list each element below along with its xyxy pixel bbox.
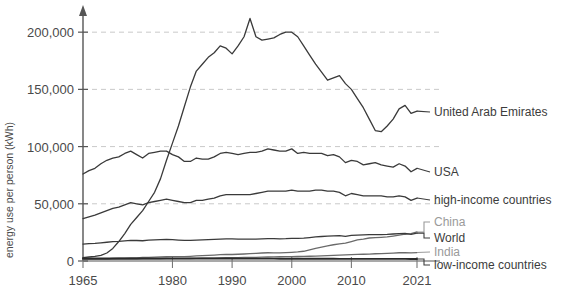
x-tick-label: 2010 (337, 273, 366, 288)
y-tick-label: 0 (67, 254, 74, 269)
series-line-china (83, 232, 417, 259)
leader-line (417, 168, 430, 172)
y-tick-label: 200,000 (27, 25, 74, 40)
series-label-low-income-countries: low-income countries (434, 258, 547, 272)
leader-line (417, 111, 430, 112)
gridlines (83, 32, 440, 204)
y-tick-label: 150,000 (27, 82, 74, 97)
leader-line (417, 252, 430, 253)
x-tick-label: 2021 (403, 273, 432, 288)
x-tick-group: 196519801990200020102021 (69, 257, 432, 288)
series-label-india: India (434, 245, 460, 259)
y-tick-group: 050,000100,000150,000200,000 (27, 25, 88, 269)
series-labels: United Arab EmiratesUSAhigh-income count… (434, 105, 551, 272)
leader-line (417, 222, 430, 232)
x-tick-label: 1980 (158, 273, 187, 288)
series-line-usa (83, 149, 417, 174)
axes (79, 5, 440, 261)
x-tick-label: 2000 (277, 273, 306, 288)
series-lines (83, 18, 417, 259)
line-chart: 050,000100,000150,000200,000 19651980199… (0, 0, 580, 293)
series-label-high-income-countries: high-income countries (434, 193, 551, 207)
chart-container: 050,000100,000150,000200,000 19651980199… (0, 0, 580, 293)
leader-line (417, 259, 430, 265)
y-tick-label: 100,000 (27, 140, 74, 155)
series-label-world: World (434, 231, 465, 245)
x-tick-label: 1990 (218, 273, 247, 288)
series-line-high-income-countries (83, 190, 417, 219)
leader-line (417, 233, 430, 238)
y-axis-arrow-icon (79, 5, 87, 16)
series-line-united-arab-emirates (83, 18, 417, 257)
x-tick-label: 1965 (69, 273, 98, 288)
series-label-usa: USA (434, 165, 459, 179)
y-axis-title: energy use per person (kWh) (3, 122, 15, 258)
label-leader-lines (417, 111, 430, 265)
y-tick-label: 50,000 (34, 197, 74, 212)
leader-line (417, 198, 430, 200)
series-label-china: China (434, 215, 466, 229)
series-line-low-income-countries (83, 258, 417, 259)
series-label-united-arab-emirates: United Arab Emirates (434, 105, 547, 119)
